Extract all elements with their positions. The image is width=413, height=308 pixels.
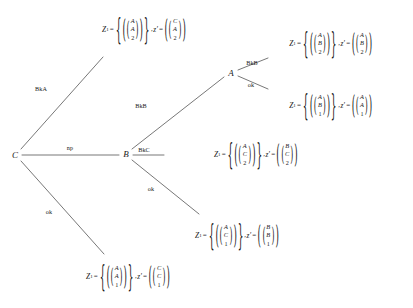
z-vector-entry-1: A — [360, 31, 364, 39]
z-equals-sign: = — [251, 233, 257, 240]
z-vector: C C 1 — [156, 264, 161, 289]
vector-entry-3: 2 — [131, 34, 134, 42]
vector-entry-2: A — [131, 26, 135, 34]
z-vector-entry-2: B — [266, 232, 270, 240]
z-outer-left-paren: ( — [258, 223, 261, 249]
vector-entry-1: A — [318, 93, 322, 101]
z-inner-left-paren: ( — [169, 20, 172, 40]
leaf-expression-bka: Z1 = { ( ( A A 2 ) ) } , z′ = ( ( C A 2 … — [102, 17, 186, 42]
z-outer-right-paren: ) — [182, 17, 185, 43]
equals-sign: = — [202, 233, 208, 240]
z-vector-entry-1: C — [173, 17, 177, 25]
tree-node-root-c: C — [12, 151, 18, 160]
inner-right-paren: ) — [136, 20, 139, 40]
outer-left-paren: ( — [215, 223, 218, 249]
vector-entry-2: A — [115, 273, 119, 281]
left-brace: { — [116, 15, 122, 44]
z-outer-left-paren: ( — [352, 93, 355, 119]
inner-left-paren: ( — [111, 267, 114, 287]
edge-label-bka: BkA — [35, 86, 47, 92]
z-vector-entry-2: C — [157, 273, 161, 281]
vector-entry-1: A — [131, 17, 135, 25]
diagram-canvas: C B A BkA np ok BkB BkC ok BkB ok Z1 = {… — [0, 0, 413, 308]
tree-node-a: A — [228, 69, 234, 78]
edge-b-bkb — [132, 77, 224, 149]
leaf-expression-ok-a: Z1 = { ( ( A B 1 ) ) } , z′ = ( ( A A 1 … — [289, 93, 373, 118]
z-vector-entry-3: 1 — [360, 110, 363, 118]
z-vector-entry-3: 1 — [157, 281, 160, 289]
outer-left-paren: ( — [234, 142, 237, 168]
right-brace: } — [256, 140, 262, 169]
vector-entry-3: 2 — [243, 159, 246, 167]
inner-right-paren: ) — [323, 34, 326, 54]
vector-entry-3: 1 — [115, 281, 118, 289]
inner-left-paren: ( — [314, 34, 317, 54]
inner-right-paren: ) — [323, 96, 326, 116]
z-vector-entry-1: B — [285, 142, 289, 150]
vector-entry-2: C — [224, 232, 228, 240]
vector-entry-1: A — [318, 31, 322, 39]
z-outer-right-paren: ) — [294, 142, 297, 168]
right-brace: } — [331, 91, 337, 120]
z-vector-entry-3: 2 — [173, 34, 176, 42]
edge-label-np: np — [67, 145, 73, 151]
z-inner-left-paren: ( — [356, 34, 359, 54]
vector-entry-3: 1 — [224, 240, 227, 248]
equals-sign: = — [109, 27, 115, 34]
edge-label-bkb-from-a: BkB — [246, 60, 258, 66]
z-outer-right-paren: ) — [369, 31, 372, 57]
z-equals-sign: = — [142, 274, 148, 281]
outer-left-paren: ( — [310, 93, 313, 119]
set-vector: A C 2 — [242, 142, 247, 167]
leaf-expression-bkb-a: Z1 = { ( ( A B 2 ) ) } , z′ = ( ( A B 2 … — [289, 31, 373, 56]
z-outer-left-paren: ( — [165, 17, 168, 43]
vector-entry-3: 1 — [318, 110, 321, 118]
right-brace: } — [237, 221, 243, 250]
z-inner-right-paren: ) — [365, 34, 368, 54]
z-inner-left-paren: ( — [281, 145, 284, 165]
z-vector: B C 2 — [284, 142, 289, 167]
vector-entry-1: A — [224, 223, 228, 231]
outer-right-paren: ) — [233, 223, 236, 249]
vector-entry-1: A — [115, 264, 119, 272]
outer-left-paren: ( — [106, 264, 109, 290]
z-outer-right-paren: ) — [369, 93, 372, 119]
edge-label-bkb-from-b: BkB — [135, 103, 147, 109]
z-inner-right-paren: ) — [178, 20, 181, 40]
inner-left-paren: ( — [220, 226, 223, 246]
equals-sign: = — [296, 41, 302, 48]
z-vector-entry-2: C — [285, 151, 289, 159]
outer-right-paren: ) — [327, 93, 330, 119]
edge-b-ok — [132, 160, 199, 214]
z-inner-left-paren: ( — [262, 226, 265, 246]
z-inner-right-paren: ) — [365, 96, 368, 116]
z-equals-sign: = — [345, 41, 351, 48]
z-outer-right-paren: ) — [275, 223, 278, 249]
z-vector-entry-3: 1 — [267, 240, 270, 248]
right-brace: } — [144, 15, 150, 44]
vector-entry-2: B — [318, 40, 322, 48]
inner-left-paren: ( — [127, 20, 130, 40]
outer-right-paren: ) — [327, 31, 330, 57]
outer-right-paren: ) — [124, 264, 127, 290]
z-inner-left-paren: ( — [153, 267, 156, 287]
left-brace: { — [100, 262, 106, 291]
left-brace: { — [303, 29, 309, 58]
edge-root-bka — [21, 57, 103, 149]
z-outer-left-paren: ( — [277, 142, 280, 168]
edge-root-ok — [21, 161, 104, 254]
z-vector: B B 1 — [266, 223, 271, 248]
z-vector: C A 2 — [172, 17, 177, 42]
z-vector-entry-1: B — [266, 223, 270, 231]
z-vector-entry-1: A — [360, 93, 364, 101]
outer-left-paren: ( — [310, 31, 313, 57]
z-equals-sign: = — [158, 27, 164, 34]
leaf-expression-ok-b: Z1 = { ( ( A C 1 ) ) } , z′ = ( ( B B 1 … — [195, 223, 279, 248]
vector-entry-1: A — [243, 142, 247, 150]
left-brace: { — [303, 91, 309, 120]
edge-label-ok-from-a: ok — [248, 82, 254, 88]
z-inner-left-paren: ( — [356, 96, 359, 116]
left-brace: { — [209, 221, 215, 250]
inner-right-paren: ) — [229, 226, 232, 246]
z-inner-right-paren: ) — [271, 226, 274, 246]
